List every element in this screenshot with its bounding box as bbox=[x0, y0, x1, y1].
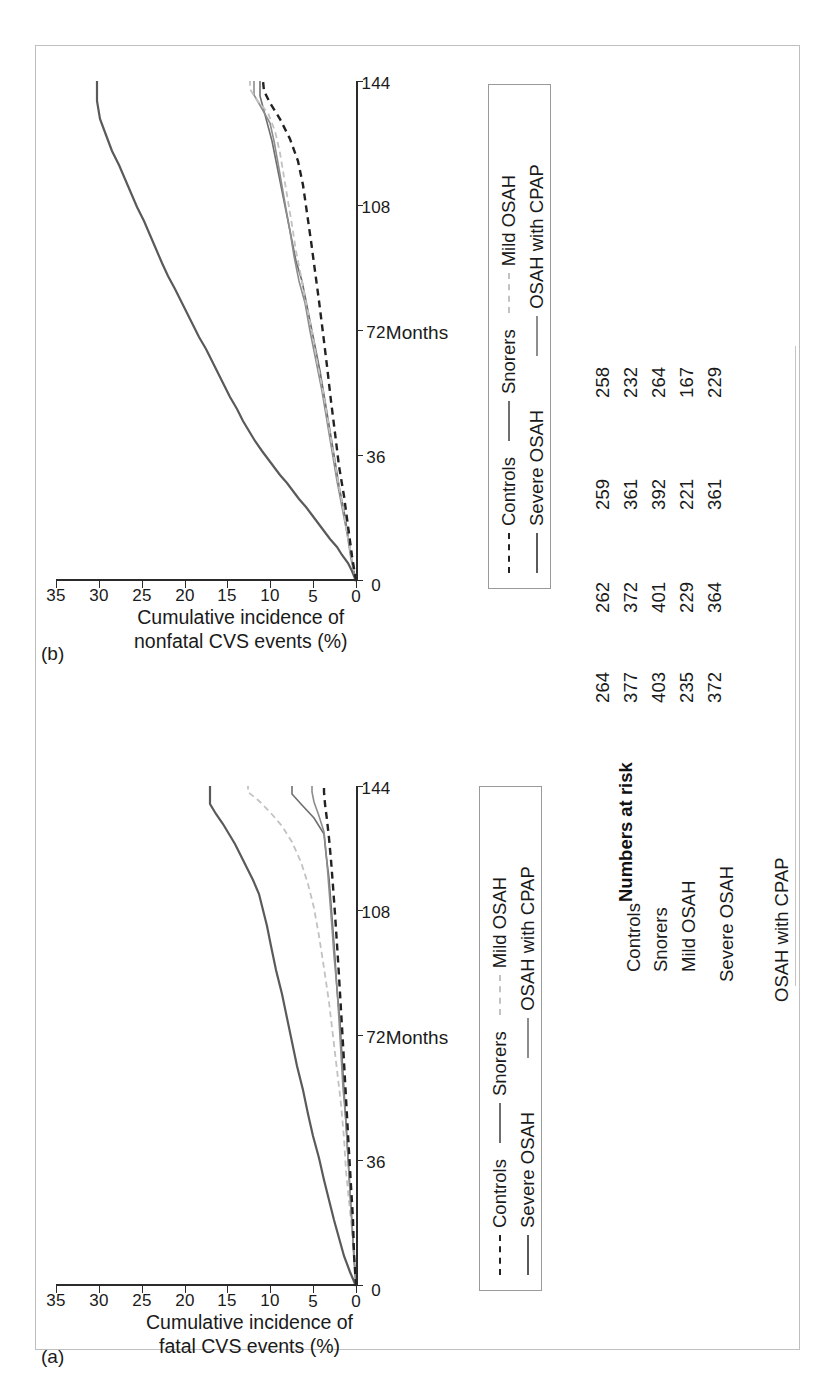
panel-a-x-axis-title: Months bbox=[386, 1027, 448, 1049]
panel-b-x-axis bbox=[356, 81, 358, 581]
numbers-at-risk-row-label-osah-cpap: OSAH with CPAP bbox=[771, 832, 793, 1002]
legend-label-severe-osah: Severe OSAH bbox=[526, 410, 548, 526]
legend-panel-a-row-1: Controls Snorers Mild OSAH bbox=[489, 861, 511, 1275]
legend-label-severe-osah: Severe OSAH bbox=[517, 1112, 539, 1228]
numbers-at-risk-cell-controls-0: 264 bbox=[592, 672, 614, 732]
panel-b-x-tick-label-72: 72 bbox=[366, 323, 385, 343]
panel-b-x-axis-title: Months bbox=[386, 322, 448, 344]
panel-b-y-tick-label-10: 10 bbox=[260, 586, 279, 606]
numbers-at-risk-cell-osah-cpap-0: 372 bbox=[704, 672, 726, 732]
legend-panel-a: Controls Snorers Mild OSAH Severe OSAH bbox=[479, 786, 542, 1291]
x-tick-36 bbox=[356, 1160, 363, 1161]
panel-a-y-tick-label-25: 25 bbox=[132, 1291, 151, 1311]
curve-severe-osah bbox=[210, 786, 356, 1286]
legend-label-snorers: Snorers bbox=[498, 329, 520, 394]
numbers-at-risk-rule bbox=[795, 346, 796, 986]
numbers-at-risk-row-label-snorers: Snorers bbox=[650, 862, 672, 972]
panel-a-plot bbox=[56, 786, 356, 1286]
curve-snorers bbox=[292, 786, 356, 1286]
numbers-at-risk-cell-snorers-0: 377 bbox=[620, 672, 642, 732]
legend-item-mild-osah: Mild OSAH bbox=[498, 175, 520, 314]
legend-item-osah-cpap: OSAH with CPAP bbox=[526, 164, 548, 356]
legend-key-controls-icon bbox=[508, 533, 510, 573]
panel-b-plot bbox=[56, 81, 356, 581]
panel-a-curves bbox=[56, 786, 356, 1286]
legend-item-controls: Controls bbox=[489, 1159, 511, 1275]
x-tick-0 bbox=[356, 1285, 363, 1286]
numbers-at-risk-cell-severe-osah-108: 167 bbox=[676, 367, 698, 427]
panel-a-y-tick-label-35: 35 bbox=[46, 1291, 65, 1311]
numbers-at-risk-row-label-controls: Controls bbox=[623, 862, 645, 972]
panel-b-y-tick-label-25: 25 bbox=[132, 586, 151, 606]
legend-key-mild-osah-icon bbox=[508, 273, 510, 313]
numbers-at-risk-cell-mild-osah-36: 401 bbox=[648, 582, 670, 642]
numbers-at-risk-cell-mild-osah-72: 392 bbox=[648, 479, 670, 539]
panel-a-y-tick-label-30: 30 bbox=[89, 1291, 108, 1311]
legend-item-severe-osah: Severe OSAH bbox=[517, 1112, 539, 1275]
numbers-at-risk-cell-osah-cpap-36: 364 bbox=[704, 582, 726, 642]
legend-label-snorers: Snorers bbox=[489, 1031, 511, 1096]
panel-a-y-axis-title-line1: Cumulative incidence of bbox=[146, 1311, 353, 1335]
legend-key-mild-osah-icon bbox=[499, 975, 501, 1015]
panel-b-y-tick-label-0: 0 bbox=[351, 587, 361, 607]
legend-label-osah-cpap: OSAH with CPAP bbox=[526, 164, 548, 309]
numbers-at-risk-cell-severe-osah-0: 235 bbox=[676, 672, 698, 732]
legend-item-controls: Controls bbox=[498, 457, 520, 573]
panel-a-y-axis-title-line2: fatal CVS events (%) bbox=[146, 1335, 353, 1359]
panel-a-tag: (a) bbox=[41, 1346, 64, 1368]
panel-b-y-axis-title: Cumulative incidence of nonfatal CVS eve… bbox=[134, 606, 348, 654]
panel-b-x-tick-label-36: 36 bbox=[366, 448, 385, 468]
panel-a-y-tick-label-0: 0 bbox=[351, 1292, 361, 1312]
panel-a-x-axis bbox=[356, 786, 358, 1286]
numbers-at-risk-cell-controls-72: 259 bbox=[592, 479, 614, 539]
panel-b-curves bbox=[56, 81, 356, 581]
panel-a-y-axis-title: Cumulative incidence of fatal CVS events… bbox=[146, 1311, 353, 1359]
curve-mild-osah bbox=[250, 81, 356, 581]
legend-panel-a-row-2: Severe OSAH OSAH with CPAP bbox=[517, 850, 539, 1275]
numbers-at-risk-cell-controls-108: 258 bbox=[592, 367, 614, 427]
legend-item-snorers: Snorers bbox=[489, 1031, 511, 1143]
numbers-at-risk-cell-snorers-36: 372 bbox=[620, 582, 642, 642]
legend-item-severe-osah: Severe OSAH bbox=[526, 410, 548, 573]
numbers-at-risk-cell-severe-osah-36: 229 bbox=[676, 582, 698, 642]
panel-b-y-axis-title-line2: nonfatal CVS events (%) bbox=[134, 630, 348, 654]
numbers-at-risk-cell-snorers-72: 361 bbox=[620, 479, 642, 539]
panel-b-y-tick-label-15: 15 bbox=[217, 586, 236, 606]
legend-panel-b-row-1: Controls Snorers Mild OSAH bbox=[498, 159, 520, 573]
legend-label-controls: Controls bbox=[489, 1159, 511, 1228]
numbers-at-risk-cell-mild-osah-0: 403 bbox=[648, 672, 670, 732]
numbers-at-risk-cell-severe-osah-72: 221 bbox=[676, 479, 698, 539]
legend-item-osah-cpap: OSAH with CPAP bbox=[517, 866, 539, 1058]
numbers-at-risk-cell-controls-36: 262 bbox=[592, 582, 614, 642]
legend-key-osah-cpap-icon bbox=[527, 1018, 529, 1058]
legend-label-controls: Controls bbox=[498, 457, 520, 526]
numbers-at-risk-cell-osah-cpap-108: 229 bbox=[704, 367, 726, 427]
legend-panel-b: Controls Snorers Mild OSAH Severe OSAH bbox=[488, 84, 551, 589]
panel-a-y-tick-label-5: 5 bbox=[308, 1292, 318, 1312]
panel-a-x-tick-label-36: 36 bbox=[366, 1153, 385, 1173]
panel-a: 0 36 72 108 144 Months 0 5 10 15 20 25 3… bbox=[36, 751, 436, 1341]
x-tick-72 bbox=[356, 1035, 363, 1036]
numbers-at-risk-cell-osah-cpap-72: 361 bbox=[704, 479, 726, 539]
panel-a-x-tick-label-72: 72 bbox=[366, 1028, 385, 1048]
panel-b-y-axis bbox=[56, 580, 356, 582]
panel-a-x-tick-label-0: 0 bbox=[371, 1281, 381, 1301]
legend-label-mild-osah: Mild OSAH bbox=[489, 877, 511, 969]
legend-item-snorers: Snorers bbox=[498, 329, 520, 441]
panel-a-y-tick-label-15: 15 bbox=[217, 1291, 236, 1311]
panel-b-tag: (b) bbox=[41, 643, 64, 665]
panel-b-y-tick-label-35: 35 bbox=[46, 586, 65, 606]
x-tick-36 bbox=[356, 455, 363, 456]
figure-frame: 0 36 72 108 144 Months 0 5 10 15 20 25 3… bbox=[35, 45, 800, 1350]
legend-label-osah-cpap: OSAH with CPAP bbox=[517, 866, 539, 1011]
x-tick-0 bbox=[356, 580, 363, 581]
panel-b-y-axis-title-line1: Cumulative incidence of bbox=[134, 606, 348, 630]
legend-item-mild-osah: Mild OSAH bbox=[489, 877, 511, 1016]
numbers-at-risk-row-label-severe-osah: Severe OSAH bbox=[716, 852, 738, 982]
panel-b-y-tick-label-5: 5 bbox=[308, 587, 318, 607]
legend-key-severe-osah-icon bbox=[536, 533, 538, 573]
panel-b-y-tick-label-30: 30 bbox=[89, 586, 108, 606]
panel-a-y-axis bbox=[56, 1285, 356, 1287]
panel-b-x-tick-label-108: 108 bbox=[362, 198, 391, 218]
legend-panel-b-row-2: Severe OSAH OSAH with CPAP bbox=[526, 148, 548, 573]
